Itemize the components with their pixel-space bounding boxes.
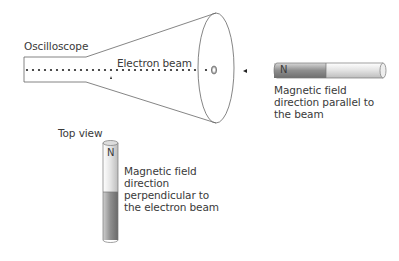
caption-line: direction: [124, 177, 219, 189]
parallel-direction-marker-icon: [243, 69, 247, 73]
caption-line: the electron beam: [124, 201, 219, 213]
caption-line: Magnetic field: [274, 84, 374, 96]
perpendicular-magnet-caption: Magnetic field direction perpendicular t…: [124, 165, 219, 213]
caption-line: perpendicular to: [124, 189, 219, 201]
parallel-magnet-pole-label: N: [280, 64, 287, 76]
electron-beam-dots: [26, 69, 207, 71]
top-view-label: Top view: [58, 127, 102, 139]
oscilloscope-label: Oscilloscope: [24, 40, 88, 52]
caption-line: direction parallel to: [274, 96, 374, 108]
caption-line: the beam: [274, 108, 374, 120]
screen-spot: [211, 66, 216, 74]
parallel-bar-magnet: [274, 63, 386, 78]
perpendicular-magnet-pole-label: N: [107, 147, 114, 159]
parallel-magnet-caption: Magnetic field direction parallel to the…: [274, 84, 374, 120]
electron-beam-label: Electron beam: [117, 57, 192, 69]
beam-marker-icon: [110, 76, 112, 79]
caption-line: Magnetic field: [124, 165, 219, 177]
